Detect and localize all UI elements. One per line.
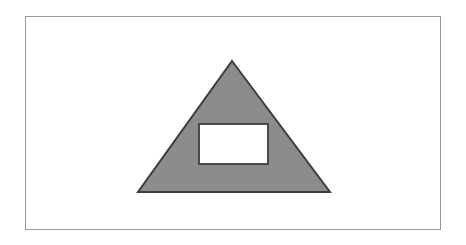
figure-svg <box>0 0 466 245</box>
white-rectangle <box>199 124 268 164</box>
figure-canvas <box>0 0 466 245</box>
